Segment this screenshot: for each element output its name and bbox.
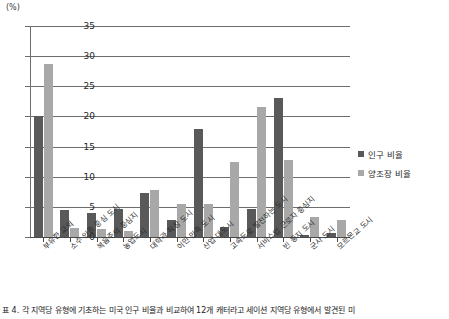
bar-chart: (%) 인구 비율 양조장 비율 표 4. 각 지역당 유형에 기초하는 미국 … [0,0,449,319]
y-axis-tick-label: 25 [65,81,95,91]
y-axis-tick-label: 35 [65,21,95,31]
y-axis-tick-mark [25,56,30,57]
legend-label-population: 인구 비율 [368,148,403,160]
y-axis-tick-label: 15 [65,142,95,152]
bar-group [323,26,350,237]
figure-caption: 표 4. 각 지역당 유형에 기초하는 미국 인구 비율과 비교하여 12개 캐… [0,305,449,316]
bar-group [217,26,244,237]
bar-brewery [150,190,159,237]
y-axis-tick-mark [25,237,30,238]
bar-brewery [44,64,53,237]
y-axis-tick-mark [25,177,30,178]
y-axis-unit-label: (%) [6,3,20,12]
y-axis-tick-label: 10 [65,172,95,182]
bar-group [30,26,57,237]
y-axis-tick-mark [25,147,30,148]
legend-swatch-icon-population [358,151,364,157]
y-axis-tick-label: 5 [65,202,95,212]
y-axis-tick-mark [25,26,30,27]
y-axis-tick-mark [25,207,30,208]
bar-population [34,116,43,237]
bar-group [190,26,217,237]
legend-item-population: 인구 비율 [358,148,411,160]
bar-group [243,26,270,237]
legend-swatch-icon-brewery [358,170,364,176]
bar-group [163,26,190,237]
bar-population [274,98,283,237]
bar-group [137,26,164,237]
chart-legend: 인구 비율 양조장 비율 [358,148,411,186]
y-axis-tick-mark [25,116,30,117]
y-axis-tick-mark [25,86,30,87]
y-axis-tick-label: 20 [65,111,95,121]
y-axis-tick-label: 30 [65,51,95,61]
legend-label-brewery: 양조장 비율 [368,167,411,179]
legend-item-brewery: 양조장 비율 [358,167,411,179]
